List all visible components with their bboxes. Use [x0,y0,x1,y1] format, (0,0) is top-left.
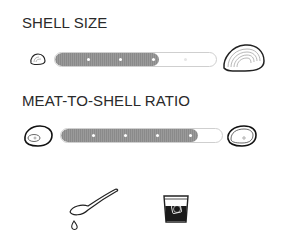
whiskey-glass-icon [162,194,190,224]
shell-size-slider [54,52,217,67]
meat-ratio-slider [60,128,223,143]
small-oyster-shell-icon [29,52,47,66]
high-meat-oyster-icon [225,124,259,148]
low-meat-oyster-icon [22,124,54,148]
meat-ratio-fill [61,129,198,142]
shell-size-fill [55,53,159,66]
slider-step-dot [184,58,187,61]
slider-step-dot [119,58,122,61]
slider-step-dot [92,134,95,137]
slider-step-dot [124,134,127,137]
large-oyster-shell-icon [221,42,267,74]
shell-size-title: SHELL SIZE [22,14,107,31]
spoon-drip-icon [68,184,120,234]
slider-step-dot [156,134,159,137]
slider-step-dot [189,134,192,137]
slider-step-dot [87,58,90,61]
slider-step-dot [152,58,155,61]
meat-ratio-title: MEAT-TO-SHELL RATIO [22,92,190,109]
